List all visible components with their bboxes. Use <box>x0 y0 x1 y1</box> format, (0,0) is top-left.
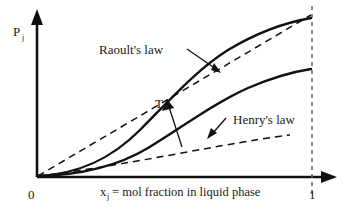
x-axis-label-text: = mol fraction in liquid phase <box>112 185 261 199</box>
y-axis-arrowhead <box>31 9 43 25</box>
raoult-leader-line <box>187 49 216 69</box>
temperature-label: T <box>155 96 163 111</box>
raoult-law-label: Raoult's law <box>99 42 164 57</box>
plot-canvas: P j 0 1 x j = mol fraction in liquid pha… <box>0 0 349 210</box>
x-axis-label-symbol: x <box>100 185 107 199</box>
real-curve-upper <box>38 18 311 176</box>
x-axis-label-subscript: j <box>106 192 109 201</box>
x-tick-label-one: 1 <box>309 187 316 202</box>
raoult-leader-arrowhead <box>211 63 221 73</box>
y-axis-label-subscript: j <box>21 33 24 42</box>
x-tick-label-zero: 0 <box>28 187 35 202</box>
partial-pressure-figure: P j 0 1 x j = mol fraction in liquid pha… <box>0 0 349 210</box>
henry-law-label: Henry's law <box>233 112 296 127</box>
x-axis-arrowhead <box>321 171 337 183</box>
y-axis-label: P <box>13 24 20 39</box>
